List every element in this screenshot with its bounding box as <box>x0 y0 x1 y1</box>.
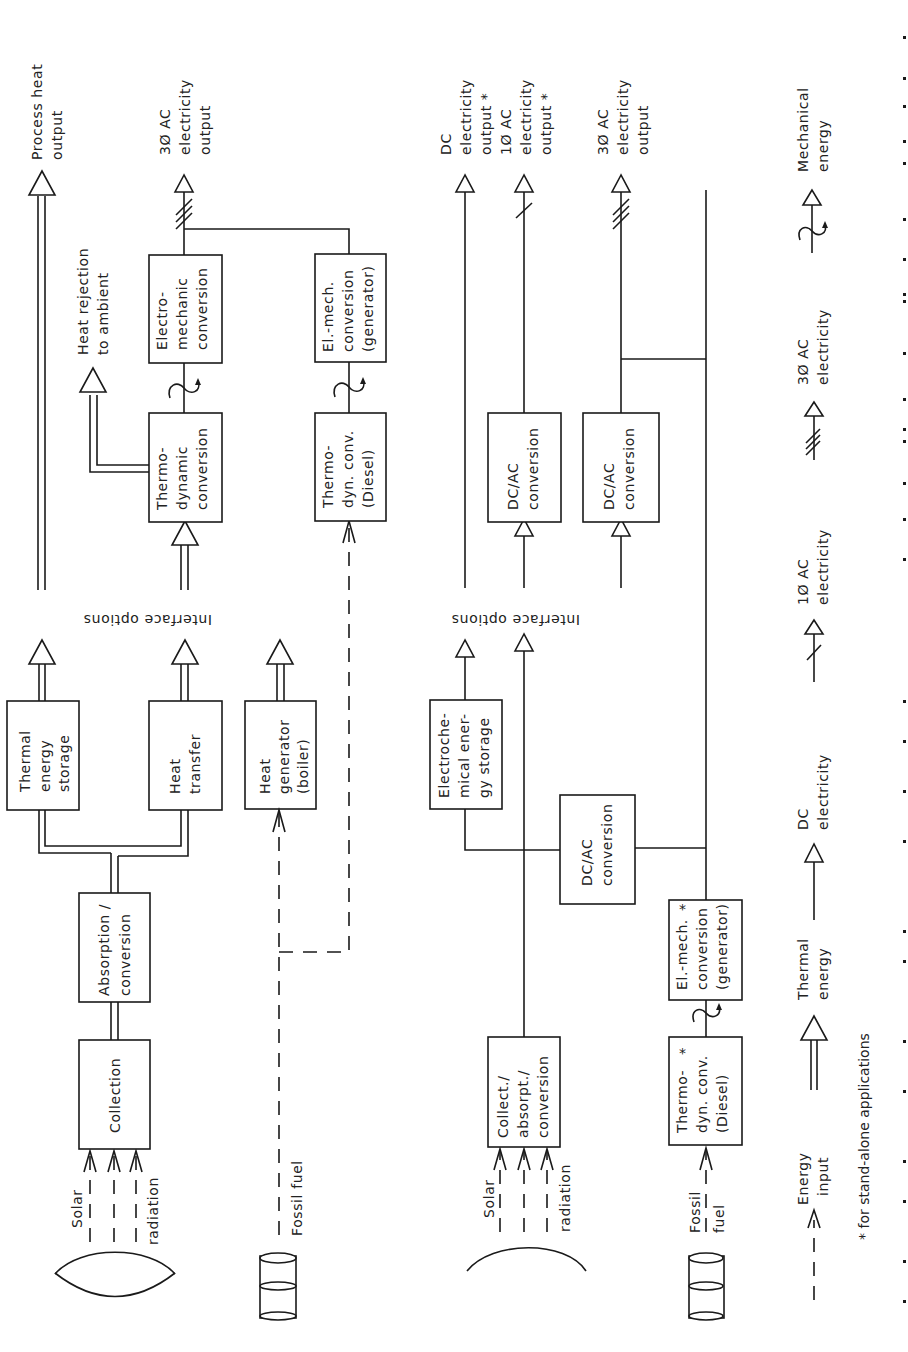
ac1-output-label-2: electricity <box>518 79 534 155</box>
legend-dc-1: DC <box>795 808 811 830</box>
dcac1-label-1: DC/AC <box>505 463 521 510</box>
absorption-label-2: conversion <box>117 914 133 996</box>
process-heat-output-label-1: Process heat <box>29 64 45 160</box>
heat-transfer-label-1: Heat <box>167 758 183 794</box>
gen-e-label-2: conversion <box>694 908 710 990</box>
boiler-label-3: (boiler) <box>295 739 311 794</box>
diesel-label-2: dyn. conv. <box>340 430 356 508</box>
energy-system-block-diagram: Solar radiation Collection Absorption / … <box>0 0 908 1352</box>
legend-energy-input-1: Energy <box>795 1152 811 1205</box>
boiler-label-1: Heat <box>257 758 273 794</box>
oil-barrel-icon <box>689 1253 724 1320</box>
heat-transfer-block <box>149 701 222 810</box>
generator-label-1: El.-mech. <box>320 281 336 352</box>
collection-label: Collection <box>107 1058 123 1133</box>
ac1-output-label-3: output * <box>538 93 554 155</box>
ac1-output-label-1: 1Ø AC <box>498 109 514 155</box>
legend-thermal-2: energy <box>815 948 831 1000</box>
diesel-e-label-3: (Diesel) <box>714 1074 730 1133</box>
interface-options-label-electric: Interface options <box>451 612 580 628</box>
fossil-fuel-label: Fossil fuel <box>289 1160 305 1236</box>
dcac2-label-2: conversion <box>621 428 637 510</box>
battery-label-3: gy storage <box>476 717 492 798</box>
heat-transfer-label-2: transfer <box>187 734 203 794</box>
fossil-label-electric-2: fuel <box>711 1204 727 1233</box>
legend-mechanical-1: Mechanical <box>795 87 811 172</box>
solar-arc <box>55 1252 175 1274</box>
absorption-conversion-block <box>79 893 150 1002</box>
legend-dc-2: electricity <box>815 754 831 830</box>
gen-e-label-1: El.-mech. <box>674 919 690 990</box>
legend: Energy input Thermal energy DC electrici… <box>795 87 831 1300</box>
boiler-label-2: generator <box>276 719 292 794</box>
solar-label: Solar <box>69 1189 85 1228</box>
process-heat-output-label-2: output <box>49 110 65 160</box>
radiation-label: radiation <box>145 1177 161 1245</box>
thermal-ac3-label-2: electricity <box>177 79 193 155</box>
diesel-label-3: (Diesel) <box>360 449 376 508</box>
tes-label-2: energy <box>37 740 53 792</box>
oil-barrel-icon <box>260 1253 296 1320</box>
solar-label-electric: Solar <box>481 1179 497 1218</box>
solar-collector-arc-icon <box>55 1273 175 1297</box>
legend-ac1-1: 1Ø AC <box>795 559 811 605</box>
electromech-label-3: conversion <box>194 268 210 350</box>
generator-label-2: conversion <box>340 270 356 352</box>
pv-label-2: absorpt./ <box>515 1070 531 1138</box>
battery-label-1: Electroche- <box>436 713 452 798</box>
legend-mechanical-2: energy <box>815 120 831 172</box>
electromech-label-2: mechanic <box>174 277 190 350</box>
tes-label-3: storage <box>56 735 72 792</box>
ac3-output-label-1: 3Ø AC <box>595 109 611 155</box>
legend-thermal-1: Thermal <box>795 938 811 1001</box>
legend-energy-input-2: input <box>815 1157 831 1196</box>
heat-rejection-label-1: Heat rejection <box>75 248 91 355</box>
fossil-label-electric-1: Fossil <box>687 1191 703 1233</box>
dc-output-label-1: DC <box>438 133 454 155</box>
ac3-output-label-2: electricity <box>615 79 631 155</box>
dcac-main-label-1: DC/AC <box>579 839 595 886</box>
radiation-label-electric: radiation <box>557 1164 573 1232</box>
dcac-conversion-main-block <box>560 795 635 904</box>
thermal-ac3-label-1: 3Ø AC <box>157 109 173 155</box>
interface-options-label-thermal: Interface options <box>83 612 212 628</box>
dcac2-label-1: DC/AC <box>601 463 617 510</box>
dc-output-label-2: electricity <box>458 79 474 155</box>
solar-radiation-arrows-electric <box>494 1149 553 1232</box>
thermal-ac3-label-3: output <box>197 105 213 155</box>
solar-collector-arc-icon <box>467 1248 586 1271</box>
thermodyn-label-1: Thermo- <box>154 447 170 511</box>
thermodyn-label-2: dynamic <box>174 446 190 510</box>
pv-label-1: Collect./ <box>495 1076 511 1139</box>
footnote: * for stand-alone applications <box>856 1033 872 1240</box>
dcac-main-label-2: conversion <box>599 804 615 886</box>
diesel-label-1: Thermo- <box>320 445 336 509</box>
caption-fragments <box>903 36 906 1303</box>
heat-rejection-label-2: to ambient <box>95 273 111 355</box>
stand-alone-asterisk-2: * <box>679 901 687 917</box>
thermodyn-label-3: conversion <box>194 428 210 510</box>
diesel-e-label-2: dyn. conv. <box>694 1055 710 1133</box>
gen-e-label-3: (generator) <box>714 903 730 990</box>
solar-radiation-arrows <box>84 1151 142 1242</box>
ac3-output-label-3: output <box>635 105 651 155</box>
dcac1-label-2: conversion <box>525 428 541 510</box>
electromech-label-1: Electro- <box>154 291 170 350</box>
diesel-e-label-1: Thermo- <box>674 1070 690 1134</box>
generator-label-3: (generator) <box>360 265 376 352</box>
tes-label-1: Thermal <box>17 730 33 793</box>
stand-alone-asterisk: * <box>679 1045 687 1061</box>
legend-ac3-2: electricity <box>815 309 831 385</box>
battery-label-2: mical ener- <box>456 713 472 798</box>
absorption-label-1: Absorption / <box>96 904 112 996</box>
legend-ac1-2: electricity <box>815 529 831 605</box>
dc-output-label-3: output * <box>478 93 494 155</box>
legend-ac3-1: 3Ø AC <box>795 339 811 385</box>
pv-label-3: conversion <box>535 1056 551 1138</box>
